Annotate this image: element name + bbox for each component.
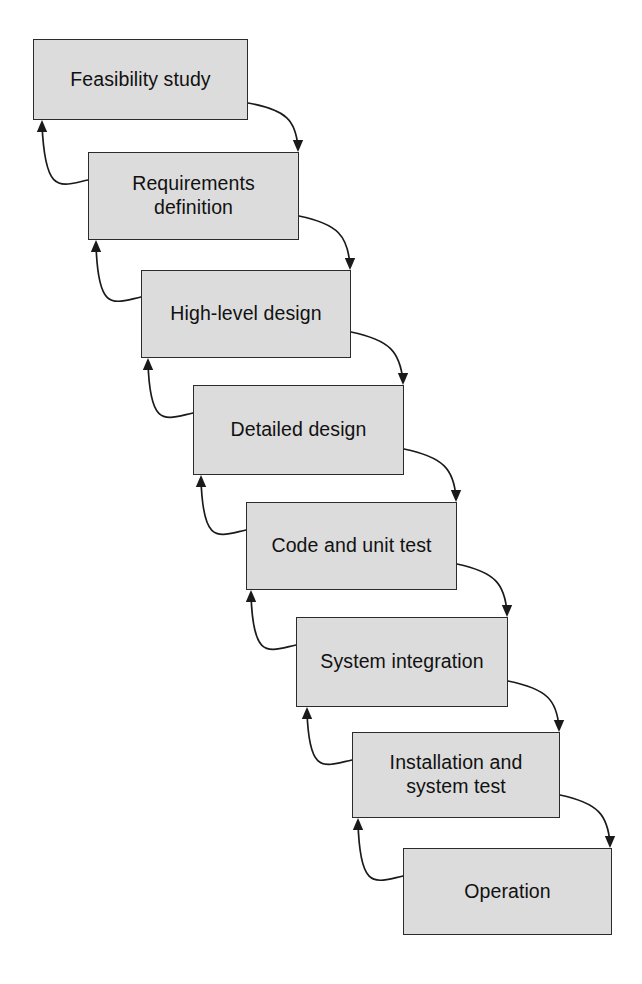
forward-arrow-arrowhead-installation-and-system-test-to-operation bbox=[605, 836, 615, 848]
feedback-arrow-arrowhead-detailed-design-to-high-level-design bbox=[143, 358, 153, 370]
stage-label-detailed-design: Detailed design bbox=[225, 418, 373, 442]
stage-box-requirements-definition[interactable]: Requirements definition bbox=[88, 152, 299, 240]
stage-label-feasibility-study: Feasibility study bbox=[64, 68, 216, 92]
stage-box-detailed-design[interactable]: Detailed design bbox=[193, 385, 404, 475]
stage-box-operation[interactable]: Operation bbox=[403, 848, 612, 935]
feedback-arrow-line-detailed-design-to-high-level-design bbox=[148, 362, 193, 417]
feedback-arrow-arrowhead-high-level-design-to-requirements-definition bbox=[91, 240, 101, 252]
forward-arrow-arrowhead-requirements-definition-to-high-level-design bbox=[345, 258, 355, 270]
feedback-arrow-arrowhead-operation-to-installation-and-system-test bbox=[353, 818, 363, 830]
waterfall-diagram: Feasibility study Requirements definitio… bbox=[0, 0, 642, 984]
forward-arrow-arrowhead-feasibility-study-to-requirements-definition bbox=[293, 140, 303, 152]
feedback-arrow-line-system-integration-to-code-and-unit-test bbox=[251, 594, 296, 649]
stage-label-code-and-unit-test: Code and unit test bbox=[265, 534, 437, 558]
forward-arrow-line-installation-and-system-test-to-operation bbox=[560, 795, 610, 844]
stage-box-installation-and-system-test[interactable]: Installation and system test bbox=[352, 732, 560, 818]
forward-arrow-line-requirements-definition-to-high-level-design bbox=[299, 216, 350, 266]
feedback-arrow-arrowhead-installation-and-system-test-to-system-integration bbox=[302, 707, 312, 719]
stage-box-high-level-design[interactable]: High-level design bbox=[141, 270, 351, 358]
stage-label-installation-and-system-test: Installation and system test bbox=[384, 751, 529, 799]
stage-label-system-integration: System integration bbox=[314, 650, 489, 674]
stage-box-feasibility-study[interactable]: Feasibility study bbox=[33, 39, 248, 120]
forward-arrow-line-code-and-unit-test-to-system-integration bbox=[457, 564, 507, 613]
forward-arrow-arrowhead-code-and-unit-test-to-system-integration bbox=[502, 605, 512, 617]
arrow-layer bbox=[0, 0, 642, 984]
stage-label-requirements-definition: Requirements definition bbox=[126, 172, 261, 220]
stage-box-system-integration[interactable]: System integration bbox=[296, 617, 508, 707]
stage-label-high-level-design: High-level design bbox=[164, 302, 327, 326]
forward-arrow-arrowhead-system-integration-to-installation-and-system-test bbox=[554, 720, 564, 732]
forward-arrow-arrowhead-high-level-design-to-detailed-design bbox=[398, 373, 408, 385]
feedback-arrow-line-operation-to-installation-and-system-test bbox=[358, 822, 403, 880]
forward-arrow-line-detailed-design-to-code-and-unit-test bbox=[404, 449, 456, 498]
forward-arrow-line-feasibility-study-to-requirements-definition bbox=[248, 103, 298, 148]
stage-box-code-and-unit-test[interactable]: Code and unit test bbox=[246, 502, 457, 590]
feedback-arrow-arrowhead-code-and-unit-test-to-detailed-design bbox=[196, 475, 206, 487]
feedback-arrow-arrowhead-system-integration-to-code-and-unit-test bbox=[246, 590, 256, 602]
feedback-arrow-line-requirements-definition-to-feasibility-study bbox=[42, 124, 88, 184]
feedback-arrow-line-high-level-design-to-requirements-definition bbox=[96, 244, 141, 301]
feedback-arrow-line-code-and-unit-test-to-detailed-design bbox=[201, 479, 246, 534]
forward-arrow-line-system-integration-to-installation-and-system-test bbox=[508, 681, 559, 728]
stage-label-operation: Operation bbox=[458, 880, 557, 904]
forward-arrow-line-high-level-design-to-detailed-design bbox=[351, 332, 403, 381]
forward-arrow-arrowhead-detailed-design-to-code-and-unit-test bbox=[451, 490, 461, 502]
feedback-arrow-arrowhead-requirements-definition-to-feasibility-study bbox=[37, 120, 47, 132]
feedback-arrow-line-installation-and-system-test-to-system-integration bbox=[307, 711, 352, 764]
